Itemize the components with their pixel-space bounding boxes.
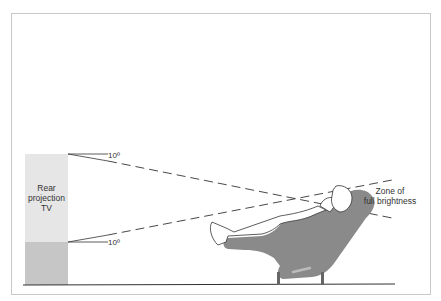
viewing-angle-diagram: Rear projection TV 10º 10º Zone of full … <box>0 0 441 301</box>
chair-leg-right <box>321 272 324 285</box>
tv-base-section <box>25 242 68 285</box>
bottom-angle-label: 10º <box>108 238 120 247</box>
tv-label-line-2: projection <box>28 193 65 203</box>
zone-label-line-2: full brightness <box>364 196 416 206</box>
top-angle-label: 10º <box>108 151 120 160</box>
tv-label-line-1: Rear <box>37 183 56 193</box>
top-angle-marker: 10º <box>68 151 120 161</box>
tv-label-line-3: TV <box>41 203 52 213</box>
bottom-angle-marker: 10º <box>68 235 120 247</box>
zone-label-line-1: Zone of <box>376 186 405 196</box>
recliner-chair <box>224 190 375 285</box>
rear-projection-tv: Rear projection TV <box>25 154 68 285</box>
chair-leg-left <box>277 272 280 285</box>
floor-line <box>23 284 395 285</box>
